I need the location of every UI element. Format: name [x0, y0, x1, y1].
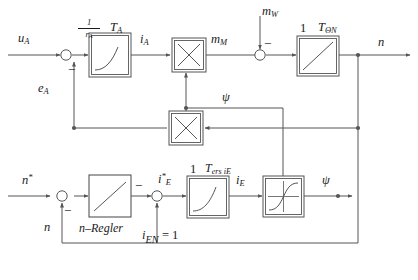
block-emf-multiplier [169, 111, 203, 145]
signal-label-ua: uA [18, 32, 29, 46]
block-label-ters-ie: Ters iE [205, 162, 231, 176]
junction-dot-psi-upper [184, 106, 188, 110]
summing-junction-load-torque [255, 50, 265, 60]
junction-dot-n-branch [356, 53, 360, 57]
block-label-ta: TA [110, 21, 122, 35]
block-label-field-one: 1 [190, 163, 196, 176]
block-label-ttheta-n: TΘN [318, 21, 337, 35]
sign-minus-load-torque-sum: − [264, 37, 271, 50]
summing-junction-field-current [152, 191, 162, 201]
summing-junction-armature [61, 50, 71, 60]
block-inertia-integrator [297, 36, 339, 76]
block-torque-multiplier [172, 38, 206, 72]
signal-label-ea: eA [38, 82, 49, 96]
block-label-n-regler: n–Regler [79, 222, 123, 234]
block-label-armature-gain-fraction: 1 rA [78, 18, 100, 40]
signal-label-psi-upper: ψ [222, 91, 230, 104]
block-label-inertia-one: 1 [300, 22, 306, 35]
block-magnetization-saturation [263, 176, 304, 217]
block-diagram-canvas: uA − eA 1 rA TA iA mM mW − 1 TΘN n ψ n* [0, 0, 418, 280]
signal-label-mm: mM [211, 33, 227, 47]
signal-label-mw: mW [262, 5, 278, 19]
summing-junction-speed-error [57, 191, 67, 201]
junction-dot-psi-out [336, 194, 340, 198]
sign-minus-field-current-sum: − [135, 179, 142, 192]
signal-label-psi-output: ψ [322, 174, 330, 187]
constant-label-ien: iEN = 1 [142, 229, 178, 245]
signal-label-ia: iA [140, 33, 149, 47]
sign-minus-speed-error-sum: − [64, 204, 71, 217]
signal-label-ie: iE [236, 174, 245, 188]
signal-label-n-output: n [378, 36, 384, 49]
junction-dot-ea-tap [72, 126, 76, 130]
block-speed-controller [89, 175, 131, 217]
sign-minus-armature-sum: − [68, 63, 75, 76]
diagram-wiring [0, 0, 418, 280]
junction-dot-n-emf [356, 126, 360, 130]
signal-label-n-reference: n* [22, 173, 33, 186]
block-field-lag [187, 176, 229, 218]
signal-label-ie-reference: i*E [158, 172, 171, 186]
signal-label-n-feedback: n [44, 221, 50, 234]
